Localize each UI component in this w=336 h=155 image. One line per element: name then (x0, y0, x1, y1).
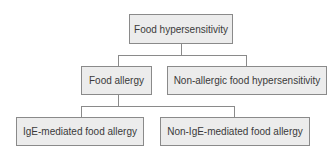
connector-to-food-allergy (118, 55, 119, 66)
node-non-ige-mediated-food-allergy: Non-IgE-mediated food allergy (160, 117, 310, 146)
connector-level1-bar (118, 55, 247, 56)
node-label: Non-allergic food hypersensitivity (174, 75, 321, 86)
node-non-allergic-food-hypersensitivity: Non-allergic food hypersensitivity (167, 66, 327, 95)
connector-root-stem (181, 44, 182, 55)
node-ige-mediated-food-allergy: IgE-mediated food allergy (16, 117, 144, 146)
node-food-hypersensitivity: Food hypersensitivity (129, 14, 233, 44)
connector-food-allergy-stem (118, 95, 119, 106)
node-label: Food hypersensitivity (134, 24, 228, 35)
node-label: Non-IgE-mediated food allergy (167, 126, 303, 137)
connector-to-ige (81, 106, 82, 117)
node-label: IgE-mediated food allergy (23, 126, 137, 137)
connector-to-non-allergic (246, 55, 247, 66)
node-label: Food allergy (89, 75, 144, 86)
node-food-allergy: Food allergy (81, 66, 152, 95)
connector-to-non-ige (234, 106, 235, 117)
connector-level2-bar (81, 106, 235, 107)
